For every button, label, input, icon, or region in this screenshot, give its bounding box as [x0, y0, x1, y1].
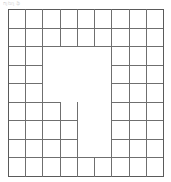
grid-line-right-border — [163, 9, 164, 177]
grid-line-col7-full — [129, 9, 130, 177]
grid-line-col1-top — [25, 9, 26, 177]
grid-line-top-border — [8, 9, 164, 10]
grid-line-col5-upper — [94, 9, 95, 47]
grid-line-left-border — [8, 9, 9, 177]
grid-line-row6-bottom-left — [8, 120, 78, 121]
grid-line-col4-upper — [77, 9, 78, 47]
grid-line-col6-upper — [111, 9, 112, 47]
grid-maze-diagram — [0, 0, 171, 182]
grid-line-col3-lower — [60, 102, 61, 177]
grid-line-bottom-border — [8, 176, 164, 177]
grid-line-row1-bottom — [8, 28, 164, 29]
grid-line-row7-bottom-left — [8, 139, 78, 140]
grid-line-col4-lower — [77, 102, 78, 177]
grid-line-row7-bottom-right — [111, 139, 164, 140]
grid-line-row4-bottom-right — [111, 83, 164, 84]
grid-line-row2-bottom — [8, 46, 164, 47]
grid-line-col2-lower — [42, 46, 43, 177]
grid-line-col8-full — [146, 9, 147, 177]
grid-line-row3-bottom-right — [111, 65, 164, 66]
grid-line-row5-bottom-right — [111, 102, 164, 103]
grid-line-row8-bottom — [8, 157, 164, 158]
grid-line-row6-bottom-right — [111, 120, 164, 121]
grid-line-col3-upper — [60, 9, 61, 47]
grid-line-col2-upper — [42, 9, 43, 47]
grid-line-col5-stub — [94, 157, 95, 177]
grid-line-row5-bottom-left — [8, 102, 61, 103]
grid-line-col6-lower — [111, 46, 112, 177]
